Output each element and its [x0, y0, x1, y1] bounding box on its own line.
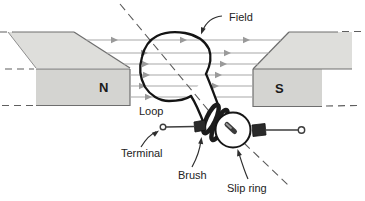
right-brush — [252, 124, 266, 137]
generator-diagram: N S — [0, 0, 365, 201]
field-arrow-icon — [212, 83, 219, 89]
n-pole-label: N — [99, 80, 108, 95]
s-magnet-front-face — [253, 69, 322, 107]
field-arrow-icon — [143, 72, 150, 78]
field-arrow-icon — [111, 37, 118, 43]
n-magnet-front-face — [36, 69, 130, 106]
slip-ring-label: Slip ring — [227, 182, 267, 194]
slip-ring-arrowhead-icon — [237, 149, 242, 156]
field-arrow-icon — [142, 61, 149, 67]
brush-label: Brush — [178, 169, 207, 181]
field-label: Field — [229, 11, 253, 23]
field-arrow-icon — [180, 37, 187, 43]
field-arrow-icon — [224, 50, 231, 56]
left-terminal-node — [160, 124, 166, 130]
brush-leader — [192, 140, 201, 167]
left-wire — [166, 127, 195, 128]
brush-arrowhead-icon — [198, 137, 203, 144]
loop-label: Loop — [139, 105, 163, 117]
s-pole-label: S — [275, 81, 284, 96]
field-arrowhead-icon — [201, 27, 206, 34]
terminal-label: Terminal — [121, 147, 163, 159]
slip-ring-leader — [239, 152, 249, 179]
n-pole-magnet: N — [0, 32, 130, 106]
s-pole-magnet: S — [253, 32, 365, 108]
field-arrow-icon — [220, 61, 227, 67]
s-magnet-top-face — [253, 32, 352, 69]
field-arrow-icon — [243, 37, 250, 43]
left-brush — [194, 120, 206, 132]
right-terminal-node — [298, 127, 304, 133]
s-magnet-cut-dash — [326, 106, 357, 107]
field-arrow-icon — [215, 72, 222, 78]
